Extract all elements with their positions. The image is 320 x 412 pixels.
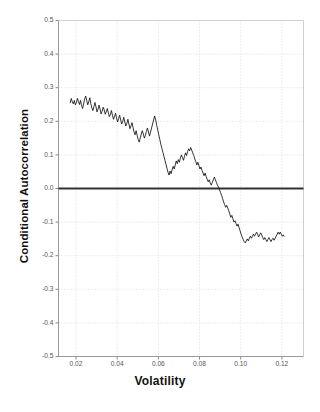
svg-text:0.12: 0.12 [275, 360, 288, 367]
data-series [70, 96, 284, 243]
svg-text:0.1: 0.1 [44, 151, 53, 158]
axis-ticks [56, 21, 282, 360]
svg-text:0.06: 0.06 [152, 360, 165, 367]
svg-text:-0.5: -0.5 [42, 352, 54, 359]
svg-text:0.08: 0.08 [193, 360, 206, 367]
svg-text:-0.4: -0.4 [42, 319, 54, 326]
svg-text:0.3: 0.3 [44, 83, 53, 90]
svg-text:-0.3: -0.3 [42, 285, 54, 292]
svg-text:0.0: 0.0 [44, 184, 53, 191]
chart-figure: Conditional Autocorrelation 0.50.40.30.2… [0, 0, 320, 412]
plot-canvas: 0.50.40.30.20.10.0-0.1-0.2-0.3-0.4-0.50.… [0, 0, 320, 412]
svg-text:0.10: 0.10 [234, 360, 247, 367]
x-axis-title: Volatility [0, 374, 320, 388]
svg-text:-0.2: -0.2 [42, 251, 54, 258]
svg-text:0.4: 0.4 [44, 50, 53, 57]
svg-text:0.04: 0.04 [111, 360, 124, 367]
svg-text:-0.1: -0.1 [42, 218, 54, 225]
svg-text:0.2: 0.2 [44, 117, 53, 124]
svg-text:0.5: 0.5 [44, 16, 53, 23]
tick-labels: 0.50.40.30.20.10.0-0.1-0.2-0.3-0.4-0.50.… [42, 16, 289, 367]
svg-text:0.02: 0.02 [70, 360, 83, 367]
